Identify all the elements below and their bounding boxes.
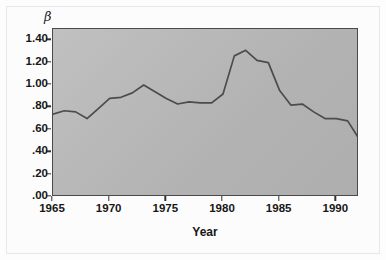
y-axis: 1.401.201.00.80.60.40.20.00 [0,28,48,196]
x-tick-mark [108,196,109,201]
y-tick-label: .60 [6,123,48,135]
beta-series-line [53,50,358,138]
x-tick-mark [278,196,279,201]
x-tick-label: 1970 [96,203,122,215]
x-tick-label: 1985 [266,203,292,215]
data-line-chart [53,29,358,196]
x-tick-mark [51,196,52,201]
y-tick-label: .40 [6,145,48,157]
x-axis-title: Year [52,226,358,238]
y-tick-label: .00 [6,190,48,202]
x-axis: 196519701975198019851990 [52,196,358,220]
x-tick-label: 1990 [323,203,349,215]
x-tick-label: 1965 [39,203,65,215]
x-tick-mark [335,196,336,201]
y-tick-label: 1.20 [6,56,48,68]
y-tick-label: .20 [6,168,48,180]
y-axis-title: β [44,10,52,23]
plot-area [52,28,358,196]
y-tick-label: .80 [6,101,48,113]
beta-vs-year-figure: β 1.401.201.00.80.60.40.20.00 1965197019… [0,0,386,260]
y-tick-label: 1.40 [6,33,48,45]
x-tick-label: 1980 [209,203,235,215]
x-tick-label: 1975 [153,203,179,215]
y-tick-label: 1.00 [6,78,48,90]
x-tick-mark [221,196,222,201]
x-tick-mark [165,196,166,201]
